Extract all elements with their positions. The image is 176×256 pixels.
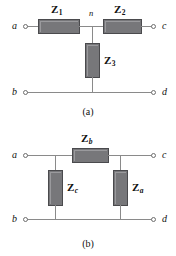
terminal-label-a-panel-a: a [12, 21, 17, 31]
wire-right-shunt-upper [120, 155, 121, 171]
terminal-b-panel-b[interactable] [23, 217, 28, 222]
impedance-label-za: Za [132, 182, 143, 193]
impedance-label-z2-sub: 2 [122, 8, 126, 17]
impedance-box-z1 [38, 19, 80, 34]
figure-container: a c b d n Z1 Z2 Z3 (a) [0, 0, 176, 256]
terminal-label-c-panel-a: c [162, 21, 166, 31]
wire-left-shunt-lower [55, 205, 56, 220]
impedance-label-z3-sub: 3 [112, 59, 116, 68]
impedance-label-zc-base: Z [67, 181, 74, 193]
impedance-label-z1: Z1 [51, 4, 62, 15]
impedance-label-zc: Zc [67, 182, 78, 193]
terminal-d-panel-b[interactable] [151, 217, 156, 222]
wire-z3-to-bottom-rail [92, 77, 93, 93]
impedance-label-zb-base: Z [81, 132, 88, 144]
terminal-d-panel-a[interactable] [151, 90, 156, 95]
terminal-label-b-panel-a: b [12, 87, 17, 97]
caption-panel-a: (a) [0, 106, 176, 117]
terminal-label-d-panel-b: d [162, 214, 167, 224]
impedance-label-z3: Z3 [104, 55, 115, 66]
wire-z1-to-node [79, 26, 93, 27]
wire-a-to-left-junction [27, 155, 73, 156]
impedance-box-z3 [85, 43, 100, 78]
wire-node-to-z3 [92, 26, 93, 44]
impedance-label-z2-base: Z [114, 3, 121, 15]
node-label-n: n [89, 9, 93, 18]
wire-right-shunt-lower [120, 205, 121, 220]
impedance-box-zb [72, 148, 109, 163]
terminal-c-panel-b[interactable] [151, 153, 156, 158]
terminal-b-panel-a[interactable] [23, 90, 28, 95]
wire-bottom-rail-b-panel [27, 219, 152, 220]
impedance-label-z3-base: Z [104, 54, 111, 66]
terminal-label-c-panel-b: c [162, 150, 166, 160]
impedance-label-zb-sub: b [89, 137, 93, 146]
terminal-label-d-panel-a: d [162, 87, 167, 97]
impedance-label-za-sub: a [140, 186, 144, 195]
terminal-c-panel-a[interactable] [151, 24, 156, 29]
impedance-label-zb: Zb [81, 133, 92, 144]
impedance-box-zc [48, 170, 63, 206]
impedance-label-z1-sub: 1 [59, 8, 63, 17]
impedance-label-z1-base: Z [51, 3, 58, 15]
impedance-box-za [113, 170, 128, 206]
terminal-label-a-panel-b: a [12, 150, 17, 160]
impedance-label-zc-sub: c [75, 186, 78, 195]
wire-left-shunt-upper [55, 155, 56, 171]
impedance-label-z2: Z2 [114, 4, 125, 15]
caption-panel-b: (b) [0, 238, 176, 249]
terminal-label-b-panel-b: b [12, 214, 17, 224]
terminal-a-panel-b[interactable] [23, 153, 28, 158]
impedance-label-za-base: Z [132, 181, 139, 193]
terminal-a-panel-a[interactable] [23, 24, 28, 29]
wire-zb-to-c [108, 155, 152, 156]
wire-bottom-rail-a-panel [27, 92, 152, 93]
impedance-box-z2 [103, 19, 142, 34]
